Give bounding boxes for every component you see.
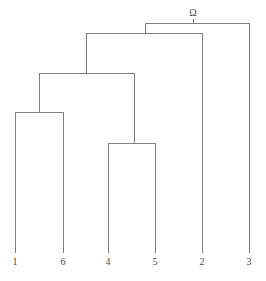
omega-root-label: Ω	[189, 7, 196, 18]
leaf-label-6: 6	[61, 256, 66, 267]
leaf-label-4: 4	[106, 256, 111, 267]
leaf-label-2: 2	[200, 256, 205, 267]
leaf-label-5: 5	[153, 256, 158, 267]
leaf-label-3: 3	[247, 256, 252, 267]
dendrogram-figure: Ω 1 6 4 5 2 3	[0, 0, 266, 281]
leaf-label-1: 1	[13, 256, 18, 267]
dendrogram-canvas: Ω 1 6 4 5 2 3	[0, 0, 266, 281]
